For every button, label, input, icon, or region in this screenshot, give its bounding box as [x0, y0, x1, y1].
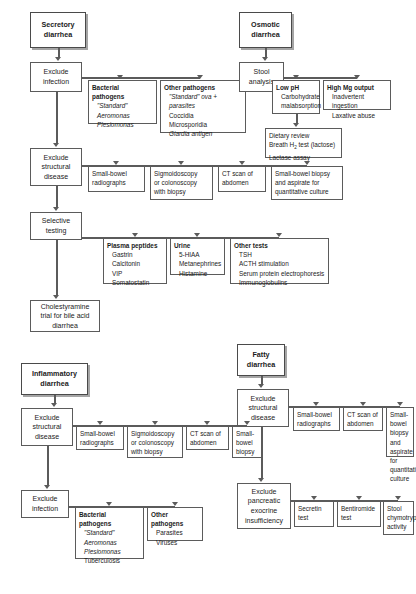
panel-sec-plasma-peptides: Plasma peptidesGastrinCalcitoninVIPSomat…	[103, 238, 167, 284]
panel-item: Bentiromide	[341, 504, 377, 513]
connector-branch-arrow	[304, 161, 310, 165]
panel-title: Other pathogens	[151, 510, 199, 528]
connector-branch-arrow	[360, 402, 366, 406]
panel-item: Carbohydrate	[276, 92, 316, 101]
panel-item: Aeromonas	[79, 538, 140, 547]
step-line: pancreatic	[248, 496, 280, 506]
branch-header-line: Inflammatory	[32, 369, 77, 379]
panel-item: Plesiomonas	[79, 547, 140, 556]
connector-sec-selective-to-cholestyramine	[56, 240, 58, 295]
branch-header-line: diarrhea	[40, 379, 68, 389]
connector-branch-arrow	[395, 496, 401, 500]
step-line: infection	[32, 504, 58, 514]
connector-osm-lowph-to-dietary-arrow	[293, 123, 299, 127]
panel-item: Gastrin	[107, 250, 163, 259]
panel-item: activity	[387, 522, 410, 531]
panel-item: and aspirate for	[275, 178, 339, 187]
connector-branch-arrow	[106, 502, 112, 506]
step-line: diarrhea	[52, 321, 78, 331]
panel-item: Sigmoidoscopy	[131, 429, 179, 438]
panel-inf-other-pathogens: Other pathogensParasitesViruses	[147, 507, 203, 541]
connector-inflammatory-header-to-structural-arrow	[51, 403, 57, 407]
connector-branch-arrow	[132, 233, 138, 237]
connector-branch-arrow	[276, 233, 282, 237]
step-inf-exclude-structural: Excludestructuraldisease	[21, 408, 73, 446]
panel-item: quantitative culture	[275, 187, 339, 196]
step-line: Exclude	[33, 494, 58, 504]
panel-sec-sigmoidoscopy: Sigmoidoscopyor colonoscopywith biopsy	[150, 166, 213, 200]
branch-header-secretory: Secretorydiarrhea	[30, 12, 86, 48]
panel-item: TSH	[234, 250, 325, 259]
panel-sec-ct-abdomen: CT scan ofabdomen	[218, 166, 266, 192]
panel-title: Low pH	[276, 83, 316, 92]
step-line: insufficiency	[245, 516, 283, 526]
panel-title: High Mg output	[327, 83, 387, 92]
panel-title: Plasma peptides	[107, 241, 163, 250]
panel-item: abdomen	[190, 438, 225, 447]
panel-item: Microsporidia	[164, 120, 242, 129]
panel-inf-sigmoidoscopy: Sigmoidoscopyor colonoscopywith biopsy	[127, 426, 183, 458]
step-line: analysis	[249, 77, 274, 87]
connector-sec-structural-to-selective	[56, 186, 58, 207]
step-line: structural	[249, 403, 278, 413]
connector-horizontal	[291, 500, 398, 502]
panel-sec-small-bowel-biopsy: Small-bowel biopsyand aspirate forquanti…	[271, 166, 343, 200]
branch-header-line: diarrhea	[247, 360, 275, 370]
step-line: structural	[42, 162, 71, 172]
connector-branch-arrow	[311, 496, 317, 500]
panel-sec-small-bowel-radiographs: Small-bowelradiographs	[88, 166, 145, 192]
step-line: trial for bile acid	[40, 311, 89, 321]
step-inf-exclude-infection: Excludeinfection	[21, 490, 69, 518]
branch-header-line: Osmotic	[251, 20, 280, 30]
panel-item: Aeromonas	[92, 111, 153, 120]
step-line: Cholestyramine	[41, 302, 90, 312]
step-line: Exclude	[252, 487, 277, 497]
panel-sec-other-tests: Other testsTSHACTH stimulationSerum prot…	[230, 238, 329, 284]
connector-branch-arrow	[197, 75, 203, 79]
connector-secretory-header-to-exclude-infection	[58, 48, 60, 57]
panel-item: Metanephrines	[174, 259, 221, 268]
panel-item: abdomen	[347, 419, 379, 428]
panel-item: Serum protein electrophoresis	[234, 269, 325, 278]
branch-header-fatty: Fattydiarrhea	[237, 344, 285, 376]
connector-inflammatory-header-to-structural	[54, 395, 56, 403]
panel-title: Urine	[174, 241, 221, 250]
connector-branch-arrow	[204, 421, 210, 425]
step-line: exocrine	[251, 506, 277, 516]
panel-item: Sigmoidoscopy	[154, 169, 209, 178]
branch-header-line: diarrhea	[251, 30, 279, 40]
step-line: disease	[35, 432, 59, 442]
step-sec-selective-testing: Selectivetesting	[30, 212, 82, 240]
panel-item: radiographs	[297, 419, 336, 428]
connector-inf-structural-to-infection	[47, 446, 49, 485]
connector-branch-arrow	[244, 421, 250, 425]
panel-item: Somatostatin	[107, 278, 163, 287]
connector-osmotic-header-to-stool-arrow	[262, 57, 268, 61]
panel-fat-small-bowel-radiographs: Small-bowelradiographs	[293, 407, 340, 431]
connector-branch-arrow	[194, 233, 200, 237]
branch-header-osmotic: Osmoticdiarrhea	[239, 12, 292, 48]
step-line: Exclude	[251, 394, 276, 404]
connector-branch-arrow	[113, 161, 119, 165]
step-line: infection	[43, 77, 69, 87]
step-line: disease	[44, 172, 68, 182]
flowchart-canvas: SecretorydiarrheaExcludeinfectionExclude…	[0, 0, 416, 594]
connector-horizontal	[69, 506, 175, 508]
branch-header-inflammatory: Inflammatorydiarrhea	[21, 363, 88, 395]
panel-item: VIP	[107, 269, 163, 278]
panel-item: aspirate for	[390, 447, 410, 465]
panel-item: Stool	[387, 504, 410, 513]
panel-title: Other tests	[234, 241, 325, 250]
connector-branch-arrow	[293, 75, 299, 79]
panel-item: radiographs	[80, 438, 120, 447]
panel-item: Small-bowel	[297, 410, 336, 419]
step-line: Exclude	[44, 153, 69, 163]
panel-fat-ct-abdomen: CT scan ofabdomen	[343, 407, 383, 431]
panel-inf-ct-abdomen: CT scan ofabdomen	[186, 426, 229, 450]
step-line: testing	[46, 226, 67, 236]
panel-item: CT scan of	[190, 429, 225, 438]
panel-sec-urine: Urine5-HIAAMetanephrinesHistamine	[170, 238, 225, 275]
panel-item: Small-bowel	[92, 169, 141, 178]
panel-item: Histamine	[174, 269, 221, 278]
panel-fat-small-bowel-biopsy: Small-bowelbiopsy andaspirate forquantit…	[386, 407, 414, 457]
